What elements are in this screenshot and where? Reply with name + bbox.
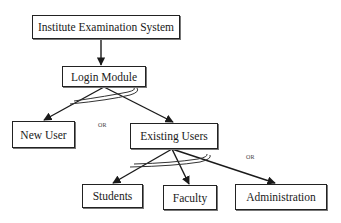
or-label-existing-users: OR (246, 154, 255, 160)
edge-existing-administration (172, 149, 275, 183)
or-label-login: OR (98, 122, 107, 128)
diagram-canvas: Institute Examination System Login Modul… (0, 0, 341, 223)
or-arc-existing-1 (130, 155, 210, 167)
node-login-module: Login Module (62, 66, 146, 87)
node-institute-examination-system: Institute Examination System (32, 15, 180, 39)
node-faculty: Faculty (163, 185, 217, 210)
node-new-user: New User (12, 121, 75, 148)
node-administration: Administration (235, 184, 327, 210)
node-existing-users: Existing Users (130, 123, 218, 149)
edge-login-existing-users (104, 87, 173, 122)
node-students: Students (82, 184, 143, 208)
